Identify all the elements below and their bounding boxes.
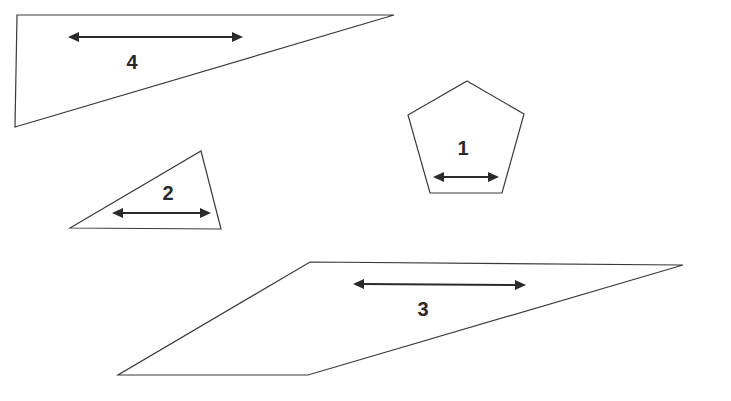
- shape-3-group: 3: [118, 262, 683, 375]
- shape-label-4: 4: [126, 51, 138, 73]
- shape-label-1: 1: [457, 137, 468, 159]
- shape-2-group: 2: [70, 151, 221, 229]
- parallelogram-shape-3: [118, 262, 683, 375]
- shape-label-3: 3: [417, 298, 428, 320]
- diagram-canvas: 4 1 2 3: [0, 0, 731, 401]
- shape-label-2: 2: [162, 182, 173, 204]
- triangle-shape-4: [15, 15, 394, 127]
- shape-1-group: 1: [408, 81, 524, 193]
- triangle-shape-2: [70, 151, 221, 229]
- shape-4-group: 4: [15, 15, 394, 127]
